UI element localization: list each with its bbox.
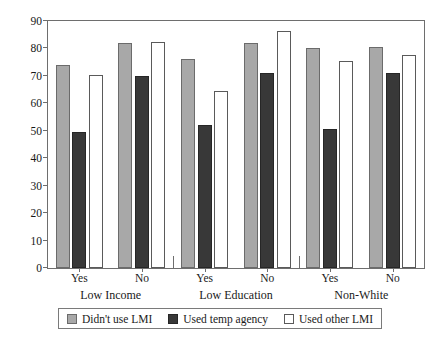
x-axis-subcategory-label: No <box>236 272 299 284</box>
x-axis-group-label: Low Education <box>173 288 298 303</box>
bar <box>56 65 70 268</box>
legend-item: Used other LMI <box>284 313 373 325</box>
legend-item: Didn't use LMI <box>67 313 152 325</box>
y-axis-tick-mark <box>43 20 47 21</box>
y-axis-tick-mark <box>43 267 47 268</box>
x-axis-group-label: Low Income <box>48 288 173 303</box>
y-axis-tick-label: 20 <box>31 206 48 220</box>
group-separator <box>299 256 300 268</box>
bar-group <box>111 21 174 268</box>
bar <box>118 43 132 268</box>
x-axis-subcategory-label: Yes <box>173 272 236 284</box>
group-separator <box>173 256 174 268</box>
x-axis-tick-mark <box>142 268 143 272</box>
y-axis-tick-label: 50 <box>31 124 48 138</box>
bar-group <box>361 21 424 268</box>
bar <box>135 76 149 268</box>
y-axis-tick-label: 10 <box>31 234 48 248</box>
bar-group <box>173 21 236 268</box>
y-axis-tick: 90 <box>31 14 48 28</box>
x-axis-group-labels: Low IncomeLow EducationNon-White <box>48 288 424 306</box>
y-axis-tick: 0 <box>36 261 47 275</box>
bar <box>402 55 416 268</box>
legend-item-label: Used temp agency <box>183 313 268 325</box>
y-axis-tick-label: 80 <box>31 41 48 55</box>
y-axis-tick: 40 <box>31 151 48 165</box>
bar-group <box>299 21 362 268</box>
y-axis-tick-label: 70 <box>31 69 48 83</box>
x-axis-tick-mark <box>393 268 394 272</box>
bar <box>151 42 165 268</box>
y-axis-tick: 50 <box>31 124 48 138</box>
legend-item: Used temp agency <box>168 313 268 325</box>
x-axis-subcategory-label: Yes <box>299 272 362 284</box>
y-axis-tick-label: 0 <box>36 261 47 275</box>
y-axis: 0102030405060708090 <box>0 10 47 280</box>
bar <box>306 48 320 268</box>
bars-layer <box>48 21 424 268</box>
legend-item-label: Didn't use LMI <box>82 313 152 325</box>
y-axis-tick-mark <box>43 185 47 186</box>
y-axis-tick-mark <box>43 102 47 103</box>
x-axis-tick-mark <box>267 268 268 272</box>
y-axis-tick: 60 <box>31 96 48 110</box>
bar-group <box>48 21 111 268</box>
bar-group <box>236 21 299 268</box>
x-axis-tick-mark <box>79 268 80 272</box>
y-axis-tick: 20 <box>31 206 48 220</box>
x-axis-subcategory-label: No <box>111 272 174 284</box>
x-axis-tick-mark <box>330 268 331 272</box>
y-axis-tick-label: 30 <box>31 179 48 193</box>
bar <box>339 61 353 268</box>
dark-swatch <box>168 314 178 324</box>
y-axis-tick-mark <box>43 75 47 76</box>
bar <box>260 73 274 268</box>
bar <box>181 59 195 268</box>
y-axis-tick-label: 40 <box>31 151 48 165</box>
y-axis-tick-mark <box>43 212 47 213</box>
white-swatch <box>284 314 294 324</box>
chart-legend: Didn't use LMIUsed temp agencyUsed other… <box>58 308 382 329</box>
gray-swatch <box>67 314 77 324</box>
x-axis-subcategory-label: Yes <box>48 272 111 284</box>
bar <box>244 43 258 268</box>
x-axis-tick-mark <box>205 268 206 272</box>
legend-item-label: Used other LMI <box>299 313 373 325</box>
y-axis-tick-mark <box>43 157 47 158</box>
x-axis-subcategory-label: No <box>361 272 424 284</box>
bar <box>89 75 103 268</box>
y-axis-tick-label: 90 <box>31 14 48 28</box>
bar-chart: 0102030405060708090 YesNoYesNoYesNo Low … <box>0 0 433 338</box>
x-axis-group-label: Non-White <box>299 288 424 303</box>
y-axis-tick-label: 60 <box>31 96 48 110</box>
y-axis-tick: 80 <box>31 41 48 55</box>
y-axis-tick-mark <box>43 130 47 131</box>
y-axis-tick-mark <box>43 240 47 241</box>
bar <box>369 47 383 268</box>
bar <box>386 73 400 268</box>
bar <box>198 125 212 268</box>
bar <box>72 132 86 268</box>
y-axis-tick: 70 <box>31 69 48 83</box>
bar <box>323 129 337 268</box>
y-axis-tick: 30 <box>31 179 48 193</box>
bar <box>214 91 228 268</box>
y-axis-tick: 10 <box>31 234 48 248</box>
y-axis-tick-mark <box>43 47 47 48</box>
bar <box>277 31 291 268</box>
